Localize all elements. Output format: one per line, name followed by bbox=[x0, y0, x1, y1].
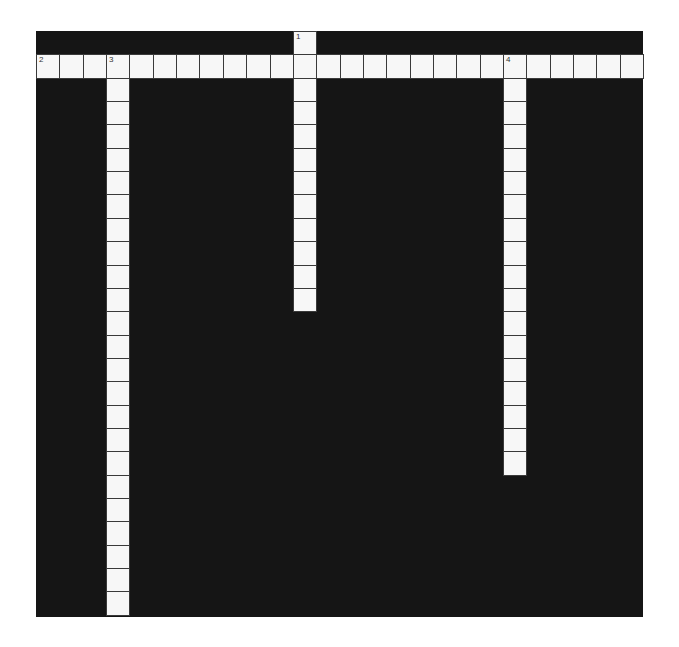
crossword-cell[interactable] bbox=[106, 288, 130, 312]
crossword-cell[interactable] bbox=[620, 54, 644, 79]
crossword-cell[interactable] bbox=[106, 475, 130, 499]
crossword-cell[interactable] bbox=[106, 78, 130, 102]
crossword-cell[interactable] bbox=[503, 311, 527, 336]
crossword-cell[interactable] bbox=[596, 54, 621, 79]
crossword-cell[interactable] bbox=[293, 194, 317, 219]
crossword-cell[interactable] bbox=[503, 194, 527, 219]
crossword-cell[interactable] bbox=[293, 148, 317, 172]
crossword-cell[interactable] bbox=[503, 171, 527, 195]
crossword-cell[interactable]: 3 bbox=[106, 54, 130, 79]
crossword-cell[interactable] bbox=[293, 265, 317, 289]
crossword-cell[interactable] bbox=[83, 54, 107, 79]
crossword-cell[interactable] bbox=[223, 54, 247, 79]
crossword-cell[interactable] bbox=[503, 78, 527, 102]
crossword-cell[interactable] bbox=[503, 124, 527, 149]
crossword-cell[interactable] bbox=[106, 241, 130, 266]
crossword-cell[interactable] bbox=[503, 241, 527, 266]
clue-number: 2 bbox=[39, 56, 43, 64]
crossword-cell[interactable] bbox=[503, 265, 527, 289]
crossword-cell[interactable] bbox=[106, 218, 130, 242]
crossword-cell[interactable] bbox=[526, 54, 551, 79]
crossword-cell[interactable] bbox=[293, 288, 317, 312]
crossword-cell[interactable] bbox=[106, 428, 130, 452]
crossword-cell[interactable] bbox=[106, 521, 130, 546]
crossword-cell[interactable] bbox=[270, 54, 294, 79]
crossword-cell[interactable] bbox=[433, 54, 457, 79]
crossword-cell[interactable] bbox=[503, 148, 527, 172]
crossword-cell[interactable] bbox=[316, 54, 341, 79]
crossword-cell[interactable] bbox=[106, 194, 130, 219]
crossword-cell[interactable] bbox=[199, 54, 224, 79]
crossword-cell[interactable] bbox=[410, 54, 434, 79]
crossword-cell[interactable] bbox=[106, 591, 130, 616]
crossword-cell[interactable] bbox=[503, 381, 527, 406]
crossword-cell[interactable] bbox=[293, 54, 317, 79]
crossword-cell[interactable]: 4 bbox=[503, 54, 527, 79]
crossword-cell[interactable] bbox=[129, 54, 154, 79]
crossword-cell[interactable] bbox=[293, 241, 317, 266]
crossword-cell[interactable] bbox=[176, 54, 200, 79]
crossword-cell[interactable] bbox=[106, 311, 130, 336]
crossword-cell[interactable] bbox=[293, 171, 317, 195]
crossword-cell[interactable] bbox=[106, 545, 130, 569]
crossword-cell[interactable] bbox=[246, 54, 271, 79]
crossword-cell[interactable] bbox=[480, 54, 504, 79]
crossword-cell[interactable]: 2 bbox=[36, 54, 60, 79]
crossword-cell[interactable] bbox=[503, 335, 527, 359]
crossword-cell[interactable] bbox=[293, 124, 317, 149]
crossword-cell[interactable] bbox=[503, 358, 527, 382]
crossword-cell[interactable] bbox=[340, 54, 364, 79]
crossword-cell[interactable] bbox=[106, 405, 130, 429]
crossword-cell[interactable] bbox=[573, 54, 597, 79]
crossword-cell[interactable] bbox=[106, 148, 130, 172]
crossword-cell[interactable] bbox=[456, 54, 481, 79]
crossword-grid: 1234 bbox=[36, 31, 643, 617]
clue-number: 4 bbox=[506, 56, 510, 64]
crossword-cell[interactable] bbox=[106, 124, 130, 149]
crossword-cell[interactable] bbox=[106, 101, 130, 125]
crossword-cell[interactable] bbox=[503, 101, 527, 125]
crossword-cell[interactable] bbox=[106, 451, 130, 476]
crossword-cell[interactable] bbox=[503, 451, 527, 476]
clue-number: 1 bbox=[296, 33, 300, 41]
crossword-cell[interactable] bbox=[503, 428, 527, 452]
crossword-cell[interactable] bbox=[363, 54, 387, 79]
crossword-cell[interactable] bbox=[59, 54, 84, 79]
crossword-cell[interactable] bbox=[106, 568, 130, 592]
crossword-cell[interactable] bbox=[293, 218, 317, 242]
crossword-cell[interactable]: 1 bbox=[293, 31, 317, 55]
crossword-cell[interactable] bbox=[503, 405, 527, 429]
crossword-cell[interactable] bbox=[293, 101, 317, 125]
crossword-cell[interactable] bbox=[106, 335, 130, 359]
crossword-cell[interactable] bbox=[106, 265, 130, 289]
crossword-cell[interactable] bbox=[106, 498, 130, 522]
crossword-cell[interactable] bbox=[386, 54, 411, 79]
crossword-cell[interactable] bbox=[153, 54, 177, 79]
clue-number: 3 bbox=[109, 56, 113, 64]
crossword-cell[interactable] bbox=[550, 54, 574, 79]
crossword-cell[interactable] bbox=[503, 218, 527, 242]
crossword-cell[interactable] bbox=[106, 171, 130, 195]
crossword-cell[interactable] bbox=[503, 288, 527, 312]
crossword-cell[interactable] bbox=[106, 358, 130, 382]
crossword-cell[interactable] bbox=[293, 78, 317, 102]
crossword-cell[interactable] bbox=[106, 381, 130, 406]
